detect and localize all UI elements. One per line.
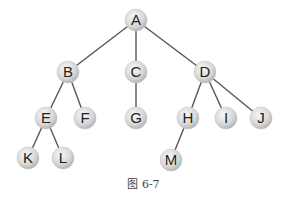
node-label: I (224, 109, 228, 126)
tree-node-I: I (215, 107, 237, 129)
tree-node-E: E (35, 107, 57, 129)
node-label: M (165, 151, 178, 168)
tree-node-B: B (57, 61, 79, 83)
node-label: H (183, 109, 194, 126)
tree-node-K: K (17, 147, 39, 169)
node-label: A (131, 11, 141, 28)
tree-nodes: ABCDEFGHIJKLM (17, 9, 272, 171)
node-label: F (80, 109, 89, 126)
tree-node-M: M (160, 149, 182, 171)
tree-node-F: F (74, 107, 96, 129)
tree-diagram: ABCDEFGHIJKLM (0, 0, 287, 199)
tree-edges (28, 20, 261, 160)
tree-node-C: C (125, 61, 147, 83)
tree-node-H: H (177, 107, 199, 129)
node-label: L (59, 149, 67, 166)
tree-node-G: G (125, 107, 147, 129)
tree-node-A: A (125, 9, 147, 31)
node-label: G (130, 109, 142, 126)
node-label: J (257, 109, 265, 126)
figure-caption: 图 6-7 (0, 175, 287, 191)
node-label: K (23, 149, 33, 166)
tree-node-D: D (194, 61, 216, 83)
node-label: B (63, 63, 73, 80)
node-label: E (41, 109, 51, 126)
tree-node-J: J (250, 107, 272, 129)
node-label: D (200, 63, 211, 80)
edge-A-D (136, 20, 205, 72)
node-label: C (131, 63, 142, 80)
tree-node-L: L (52, 147, 74, 169)
edge-A-B (68, 20, 136, 72)
